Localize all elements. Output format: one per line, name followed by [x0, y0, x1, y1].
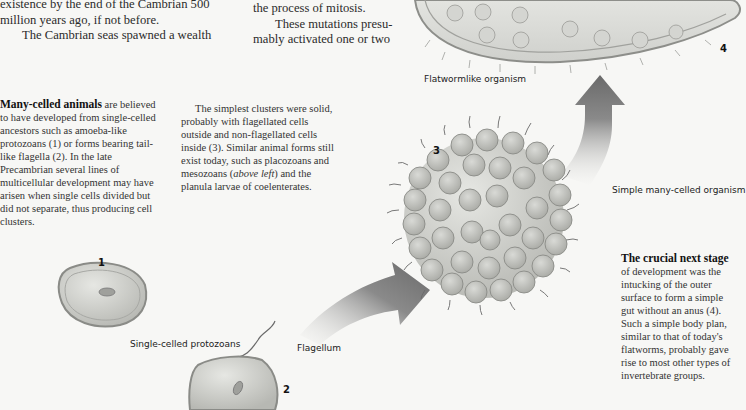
protozoan-flagellate-icon — [189, 321, 277, 410]
flatworm-organism-icon — [415, 0, 740, 74]
arrow-curved-icon — [300, 262, 430, 345]
arrow-up-icon — [560, 75, 625, 185]
caption-body: of development was the intucking of the … — [621, 266, 730, 381]
figure-number-2: 2 — [283, 384, 290, 395]
caption-heading: The crucial next stage — [621, 252, 729, 264]
figure-number-4: 4 — [720, 43, 727, 54]
caption-many-celled-animals: Many-celled animals are believed to have… — [0, 98, 158, 228]
figure-number-1: 1 — [98, 257, 105, 268]
caption-italic: above left — [233, 168, 274, 179]
caption-simplest-clusters: The simplest clusters were solid, probab… — [181, 102, 341, 193]
caption-crucial-next-stage: The crucial next stage of development wa… — [621, 252, 739, 382]
figure-number-3: 3 — [433, 145, 440, 156]
label-flatwormlike-organism: Flatwormlike organism — [424, 74, 526, 84]
label-flagellum: Flagellum — [297, 343, 341, 353]
caption-heading: Many-celled animals — [0, 98, 102, 110]
caption-body: are believed to have developed from sing… — [0, 99, 156, 227]
label-simple-many-celled-organism: Simple many-celled organism — [612, 185, 746, 195]
label-single-celled-protozoans: Single-celled protozoans — [130, 339, 240, 349]
protozoan-amoeba-icon — [59, 263, 147, 327]
